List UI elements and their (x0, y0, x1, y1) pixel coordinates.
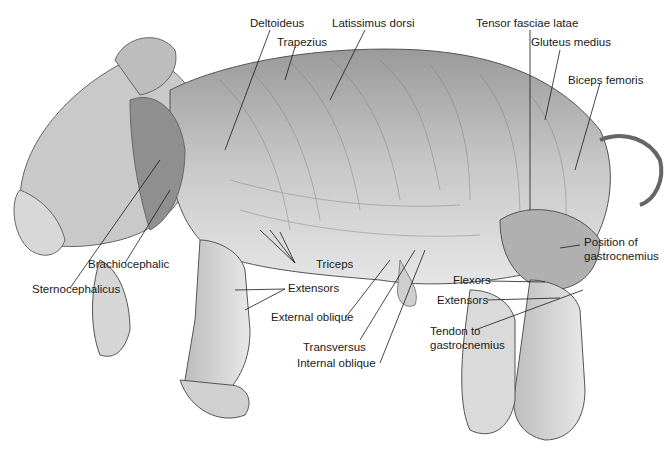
label-tendon-to: Tendon to (430, 325, 481, 338)
label-tensor-fasciae-latae: Tensor fasciae latae (476, 17, 578, 30)
label-extensors-fore: Extensors (288, 282, 339, 295)
label-deltoideus: Deltoideus (250, 17, 304, 30)
label-latissimus-dorsi: Latissimus dorsi (332, 17, 414, 30)
front-leg-back-shape (93, 260, 131, 356)
hind-leg-shape (514, 280, 585, 440)
label-external-oblique: External oblique (271, 311, 353, 324)
fetal-pig-illustration (0, 0, 672, 449)
hind-leg-back-shape (462, 290, 515, 434)
front-leg-shape (185, 240, 250, 404)
label-flexors: Flexors (453, 274, 491, 287)
label-sternocephalicus: Sternocephalicus (32, 283, 120, 296)
label-gluteus-medius: Gluteus medius (531, 36, 611, 49)
label-gastrocnemius-position: gastrocnemius (584, 250, 659, 263)
label-position-of: Position of (584, 236, 638, 249)
label-extensors-hind: Extensors (437, 294, 488, 307)
label-internal-oblique: Internal oblique (297, 357, 376, 370)
label-brachiocephalic: Brachiocephalic (88, 258, 169, 271)
anatomy-diagram: Deltoideus Trapezius Latissimus dorsi Te… (0, 0, 672, 449)
label-trapezius: Trapezius (277, 36, 327, 49)
label-triceps: Triceps (316, 258, 353, 271)
front-hoof-shape (180, 380, 249, 418)
label-transversus: Transversus (303, 341, 366, 354)
label-biceps-femoris: Biceps femoris (568, 74, 643, 87)
label-gastrocnemius-tendon: gastrocnemius (430, 339, 505, 352)
